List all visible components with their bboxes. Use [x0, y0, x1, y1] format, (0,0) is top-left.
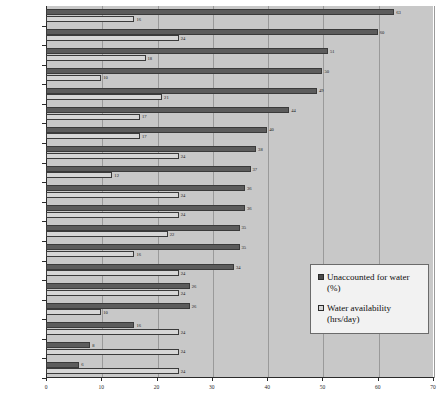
x-axis-tick: [267, 377, 268, 381]
x-axis-tick-label: 10: [99, 384, 105, 390]
chart-bar: [46, 55, 146, 61]
x-axis-tick-label: 40: [264, 384, 270, 390]
chart-legend: Unaccounted for water (%) Water availabi…: [310, 264, 429, 334]
y-axis-tick: [42, 202, 46, 203]
y-axis-tick: [42, 65, 46, 66]
y-axis-tick: [42, 163, 46, 164]
chart-bar-value-label: 17: [142, 114, 147, 119]
chart-bar-value-label: 50: [324, 69, 329, 74]
chart-bar-value-label: 37: [253, 167, 258, 172]
chart-bar: [46, 107, 289, 113]
chart-bar-value-label: 36: [247, 206, 252, 211]
chart-bar-value-label: 24: [181, 154, 186, 159]
chart-bar: [46, 9, 394, 15]
chart-bar: [46, 212, 179, 218]
chart-bar-value-label: 6: [81, 362, 83, 367]
chart-bar: [46, 342, 90, 348]
x-axis-tick: [433, 377, 434, 381]
y-axis-tick: [42, 339, 46, 340]
chart-bar: [46, 172, 112, 178]
chart-bar-value-label: 24: [181, 369, 186, 374]
chart-bar-value-label: 26: [192, 284, 197, 289]
x-axis-tick: [322, 377, 323, 381]
chart-bar-value-label: 24: [181, 349, 186, 354]
chart-bar: [46, 251, 134, 257]
chart-bar: [46, 166, 251, 172]
legend-item-water-availability: Water availability (hrs/day): [318, 303, 422, 325]
chart-bar: [46, 68, 322, 74]
x-axis-tick-label: 0: [45, 384, 48, 390]
gridline: [268, 6, 269, 378]
y-axis-tick: [42, 182, 46, 183]
x-axis-tick-label: 60: [375, 384, 381, 390]
chart-bar-value-label: 12: [114, 173, 119, 178]
chart-bar-value-label: 35: [242, 225, 247, 230]
chart-bar: [46, 329, 179, 335]
chart-bar-value-label: 16: [136, 323, 141, 328]
chart-bar-value-label: 16: [136, 17, 141, 22]
y-axis-tick: [42, 123, 46, 124]
x-axis-tick: [46, 377, 47, 381]
x-axis-tick: [378, 377, 379, 381]
chart-bar: [46, 94, 162, 100]
chart-bar: [46, 264, 234, 270]
chart-bar: [46, 205, 245, 211]
chart-bar: [46, 309, 101, 315]
legend-label: Unaccounted for water (%): [327, 272, 422, 294]
chart-bar: [46, 127, 267, 133]
chart-bar: [46, 48, 328, 54]
chart-bar-value-label: 24: [181, 330, 186, 335]
chart-bar: [46, 88, 317, 94]
chart-bar: [46, 244, 240, 250]
chart-bar: [46, 146, 256, 152]
chart-bar: [46, 153, 179, 159]
chart-bar-value-label: 51: [330, 49, 335, 54]
chart-bar: [46, 322, 134, 328]
chart-bar: [46, 75, 101, 81]
chart-bar-value-label: 36: [247, 186, 252, 191]
chart-bar: [46, 283, 190, 289]
x-axis-tick-label: 70: [430, 384, 436, 390]
chart-bar-value-label: 49: [319, 88, 324, 93]
chart-bar-value-label: 10: [103, 75, 108, 80]
chart-bar: [46, 16, 134, 22]
legend-swatch-icon: [318, 305, 324, 311]
chart-bar: [46, 29, 378, 35]
x-axis-tick-label: 30: [209, 384, 215, 390]
chart-bar-value-label: 24: [181, 36, 186, 41]
y-axis-tick: [42, 358, 46, 359]
legend-swatch-icon: [318, 274, 324, 280]
chart-bar-value-label: 18: [148, 56, 153, 61]
chart-bar-value-label: 10: [103, 310, 108, 315]
chart-bar-value-label: 40: [269, 127, 274, 132]
x-axis-tick-label: 50: [320, 384, 326, 390]
y-axis-tick: [42, 319, 46, 320]
x-axis-line: [46, 377, 433, 378]
y-axis-tick: [42, 221, 46, 222]
y-axis-tick: [42, 84, 46, 85]
chart-bar-value-label: 24: [181, 193, 186, 198]
chart-bar: [46, 368, 179, 374]
y-axis-tick: [42, 300, 46, 301]
chart-bar-value-label: 24: [181, 271, 186, 276]
y-axis-tick: [42, 241, 46, 242]
chart-bar: [46, 185, 245, 191]
chart-bar: [46, 290, 179, 296]
chart-bar-value-label: 8: [92, 343, 94, 348]
y-axis-tick: [42, 378, 46, 379]
chart-bar: [46, 35, 179, 41]
x-axis-tick: [212, 377, 213, 381]
chart-bar-value-label: 60: [380, 30, 385, 35]
chart-bar-value-label: 63: [396, 10, 401, 15]
chart-bar-value-label: 24: [181, 291, 186, 296]
chart-bar-value-label: 38: [258, 147, 263, 152]
x-axis-tick: [157, 377, 158, 381]
y-axis-tick: [42, 143, 46, 144]
y-axis-tick: [42, 104, 46, 105]
gridline: [213, 6, 214, 378]
y-axis-tick: [42, 26, 46, 27]
chart-bar: [46, 349, 179, 355]
gridline: [434, 6, 435, 378]
chart-bar: [46, 114, 140, 120]
y-axis-tick: [42, 280, 46, 281]
